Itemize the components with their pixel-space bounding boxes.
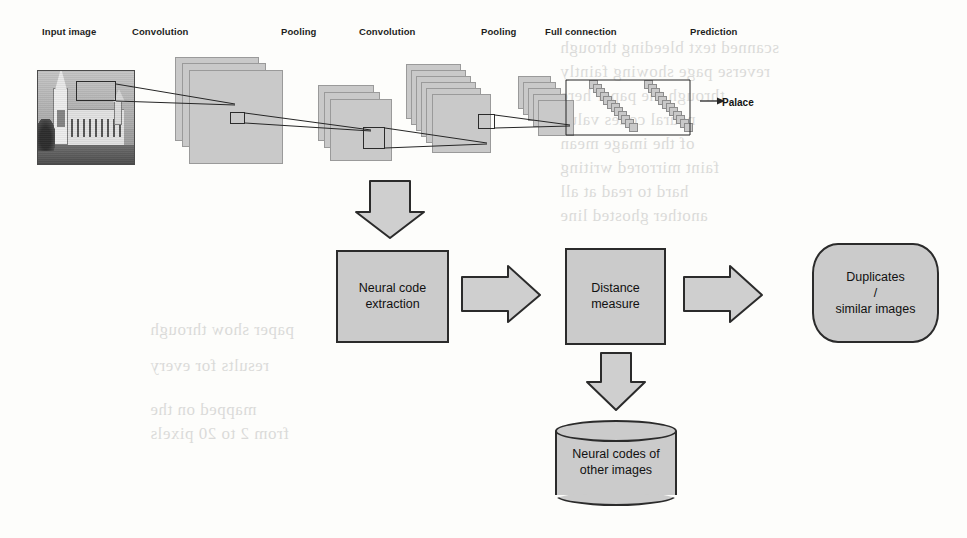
cylinder-top xyxy=(555,420,677,442)
datastore-line-1: Neural codes of xyxy=(572,447,660,461)
pool2-plane-1 xyxy=(538,100,574,136)
datastore-line-2: other images xyxy=(580,463,652,477)
stage-label-pooling-2: Pooling xyxy=(481,26,517,37)
stage-label-convolution-2: Convolution xyxy=(359,26,416,37)
ghost-line-5: faint mirrored writing xyxy=(560,158,719,178)
pool1-patch xyxy=(363,127,385,149)
stage-label-full-connection: Full connection xyxy=(545,26,617,37)
figure-canvas: scanned text bleeding throughreverse pag… xyxy=(0,0,967,538)
ghost-line-4: of the image mean xyxy=(560,134,695,154)
input-receptive-field-patch xyxy=(76,81,116,101)
fc-unit-c1-12 xyxy=(629,123,638,132)
distance-measure-line-1: Distance xyxy=(591,281,640,295)
datastore-neural-codes-of-other-images[interactable]: Neural codes of other images xyxy=(555,420,677,506)
outcome-box-duplicates-similar-images[interactable]: Duplicates / similar images xyxy=(812,243,939,343)
ghost-line-9: results for every xyxy=(150,356,269,376)
duplicates-line-2: / xyxy=(874,286,877,300)
stage-label-input-image: Input image xyxy=(42,26,96,37)
block-arrow-right-to-distance xyxy=(462,266,540,322)
ghost-line-1: reverse page showing faintly xyxy=(560,62,770,82)
conv1-patch xyxy=(230,112,245,124)
duplicates-line-3: similar images xyxy=(836,302,916,316)
distance-measure-line-2: measure xyxy=(591,297,640,311)
block-arrow-down-to-datastore xyxy=(587,353,645,410)
ghost-line-0: scanned text bleeding through xyxy=(560,38,779,58)
ghost-line-2: through the paper here xyxy=(560,86,724,106)
duplicates-line-1: Duplicates xyxy=(846,270,904,284)
ghost-line-7: another ghosted line xyxy=(560,206,708,226)
conv2-patch xyxy=(478,114,495,129)
ghost-line-8: paper show through xyxy=(150,320,294,340)
process-box-neural-code-extraction[interactable]: Neural code extraction xyxy=(336,250,449,343)
prediction-output-label: Palace xyxy=(722,97,754,108)
process-box-distance-measure[interactable]: Distance measure xyxy=(565,248,666,345)
block-arrow-down-to-extraction xyxy=(356,181,424,238)
ghost-line-6: hard to read at all xyxy=(560,182,688,202)
fc-unit-c2-12 xyxy=(684,123,693,132)
block-arrow-right-to-duplicates xyxy=(684,266,762,322)
ghost-line-11: from 2 to 20 pixels xyxy=(150,424,289,444)
datastore-label: Neural codes of other images xyxy=(555,447,677,478)
stage-label-prediction: Prediction xyxy=(690,26,737,37)
stage-label-convolution-1: Convolution xyxy=(132,26,189,37)
ghost-line-10: mapped on the xyxy=(150,400,257,420)
stage-label-pooling-1: Pooling xyxy=(281,26,317,37)
neural-code-extraction-line-2: extraction xyxy=(365,297,419,311)
neural-code-extraction-line-1: Neural code xyxy=(359,281,426,295)
